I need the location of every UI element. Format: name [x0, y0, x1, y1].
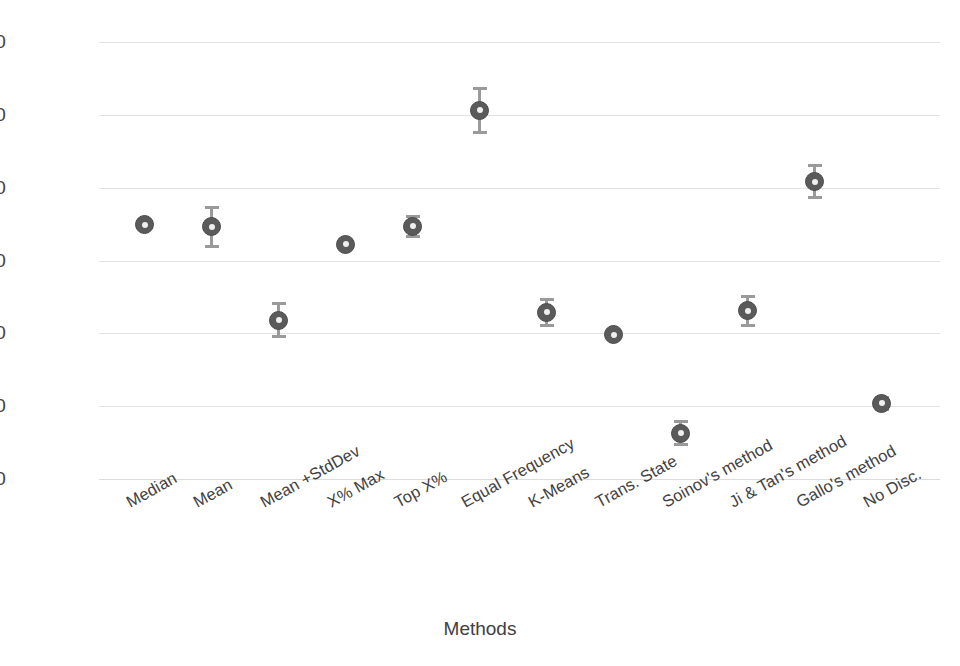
error-bar-cap-upper [540, 298, 554, 301]
data-point-marker [470, 101, 489, 120]
data-point-marker [269, 311, 288, 330]
y-axis-tick-label: 0 [0, 469, 6, 488]
marker-center [544, 309, 550, 315]
marker-center [611, 332, 617, 338]
data-point-marker [537, 303, 556, 322]
data-point-marker [403, 217, 422, 236]
y-axis-tick-label: 50 [0, 105, 6, 124]
x-axis-title: Methods [0, 618, 960, 640]
error-bar-cap-lower [205, 245, 219, 248]
marker-center [276, 317, 282, 323]
error-bar-cap-upper [674, 420, 688, 423]
x-axis-tick-label: Mean [190, 475, 236, 512]
error-bar-cap-lower [808, 196, 822, 199]
marker-center [745, 308, 751, 314]
error-bar-cap-lower [540, 324, 554, 327]
error-bar-cap-upper [272, 302, 286, 305]
y-axis-tick-label: 60 [0, 32, 6, 51]
data-point-marker [738, 301, 757, 320]
marker-center [879, 400, 885, 406]
marker-center [142, 222, 148, 228]
y-axis-tick-label: 20 [0, 323, 6, 342]
data-point-marker [202, 217, 221, 236]
data-point-marker [872, 394, 891, 413]
error-bar-cap-lower [272, 335, 286, 338]
error-bar-cap-upper [473, 87, 487, 90]
plot-area [99, 42, 940, 479]
error-bar-cap-upper [741, 295, 755, 298]
marker-center [343, 241, 349, 247]
data-point-marker [135, 215, 154, 234]
error-bar-cap-upper [808, 164, 822, 167]
marker-center [678, 430, 684, 436]
marker-center [477, 107, 483, 113]
data-point-marker [671, 424, 690, 443]
data-series [99, 42, 940, 479]
data-point-marker [805, 172, 824, 191]
marker-center [209, 224, 215, 230]
data-point-marker [336, 235, 355, 254]
y-axis-tick-label: 40 [0, 178, 6, 197]
y-axis-tick-label: 10 [0, 396, 6, 415]
marker-center [410, 223, 416, 229]
data-point-marker [604, 325, 623, 344]
error-bar-cap-lower [674, 443, 688, 446]
error-bar-cap-upper [205, 206, 219, 209]
marker-center [812, 179, 818, 185]
chart-figure: Max Enrichment 0102030405060 MedianMeanM… [0, 0, 960, 666]
error-bar-cap-lower [741, 324, 755, 327]
error-bar-cap-lower [473, 131, 487, 134]
y-axis-tick-label: 30 [0, 251, 6, 270]
